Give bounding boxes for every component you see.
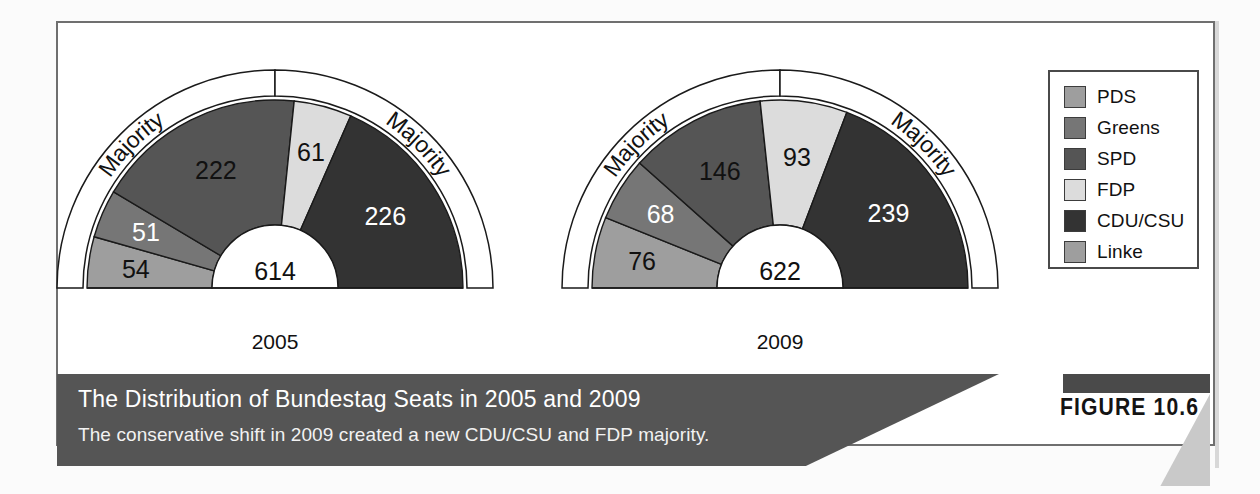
legend-swatch (1064, 210, 1086, 232)
legend-swatch (1064, 86, 1086, 108)
year-label-2005: 2005 (195, 330, 355, 354)
legend-item: FDP (1064, 174, 1197, 205)
legend-item-label: FDP (1097, 179, 1135, 201)
figure-root: 545122261226614MajorityMajority766814693… (0, 0, 1260, 494)
legend-item-label: CDU/CSU (1097, 210, 1184, 232)
legend-swatch (1064, 241, 1086, 263)
year-label-2009: 2009 (700, 330, 860, 354)
figure-number-label: FIGURE 10.6 (1060, 394, 1199, 421)
legend-item-label: PDS (1097, 86, 1136, 108)
legend-item: CDU/CSU (1064, 205, 1197, 236)
legend-item-label: Linke (1097, 241, 1143, 263)
legend-item: Greens (1064, 112, 1197, 143)
legend: PDSGreensSPDFDPCDU/CSULinke (1048, 70, 1199, 269)
legend-item: SPD (1064, 143, 1197, 174)
figure-number-bar (1063, 374, 1210, 393)
caption-subtitle: The conservative shift in 2009 created a… (78, 424, 709, 446)
caption-title: The Distribution of Bundestag Seats in 2… (78, 386, 641, 413)
legend-swatch (1064, 117, 1086, 139)
legend-item-label: SPD (1097, 148, 1136, 170)
legend-swatch (1064, 179, 1086, 201)
legend-item: Linke (1064, 236, 1197, 267)
legend-item-label: Greens (1097, 117, 1160, 139)
page-edge-shadow (1215, 21, 1219, 468)
legend-swatch (1064, 148, 1086, 170)
legend-item: PDS (1064, 81, 1197, 112)
